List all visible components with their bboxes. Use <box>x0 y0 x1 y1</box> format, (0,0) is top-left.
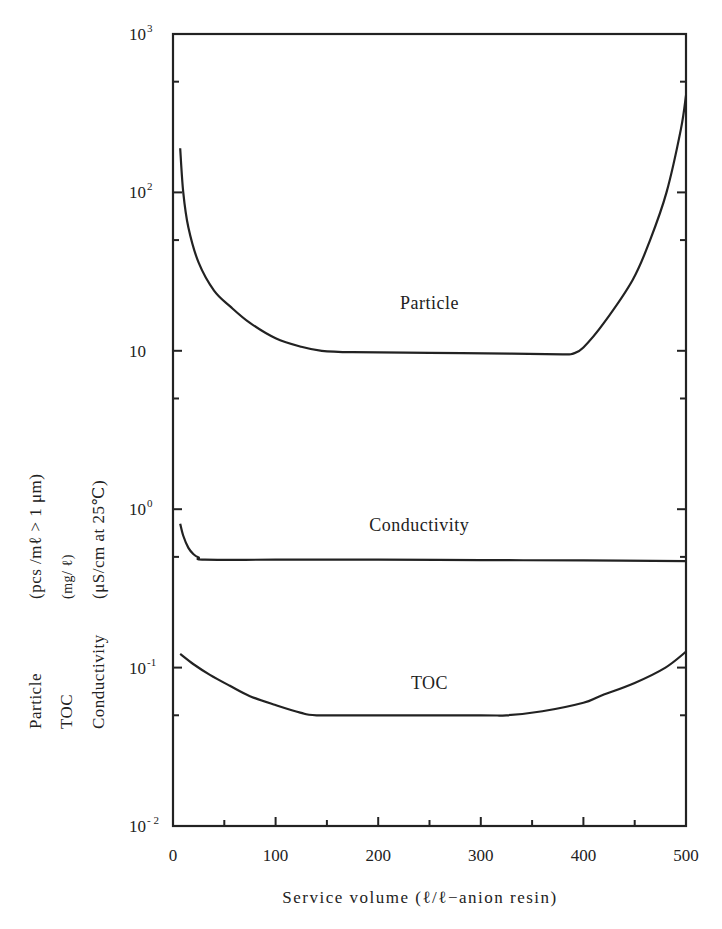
y-tick-label: 102 <box>129 180 153 202</box>
y-tick-label: 103 <box>129 22 153 44</box>
x-tick-label: 500 <box>673 846 699 865</box>
y-axis-title-particle-name: Particle <box>26 673 45 729</box>
plot-border <box>173 34 686 826</box>
series-line-particle <box>180 95 686 354</box>
y-axis-title-conductivity-unit: (μS/cm at 25℃) <box>89 480 108 599</box>
x-tick-label: 400 <box>571 846 597 865</box>
y-axis-title-toc-name: TOC <box>57 694 76 729</box>
y-tick-labels: 1031021010010-110- 2 <box>129 22 159 836</box>
series-lines <box>180 95 686 715</box>
y-axis-title-particle: Particle (pcs /mℓ > 1 μm) <box>26 474 45 730</box>
x-tick-label: 200 <box>365 846 391 865</box>
x-tick-label: 0 <box>169 846 178 865</box>
x-tick-labels: 0100200300400500 <box>169 846 699 865</box>
y-axis-title-conductivity-name: Conductivity <box>89 634 108 729</box>
y-axis-title-toc: TOC (mg/ ℓ) <box>57 554 76 729</box>
y-tick-label: 100 <box>129 497 153 519</box>
plot-frame <box>173 34 686 826</box>
y-axis-title-particle-unit: (pcs /mℓ > 1 μm) <box>26 474 45 600</box>
x-axis-title: Service volume (ℓ/ℓ−anion resin) <box>282 888 557 907</box>
curve-label-particle: Particle <box>400 293 459 313</box>
axis-ticks <box>173 34 686 826</box>
chart: 0100200300400500 1031021010010-110- 2 Pa… <box>0 0 722 929</box>
y-axis-title-toc-unit: (mg/ ℓ) <box>60 554 76 599</box>
curve-label-toc: TOC <box>411 673 448 693</box>
y-axis-title-conductivity: Conductivity (μS/cm at 25℃) <box>89 480 108 729</box>
x-tick-label: 300 <box>468 846 494 865</box>
y-tick-label: 10 <box>129 342 146 361</box>
curve-label-conductivity: Conductivity <box>369 515 469 535</box>
y-tick-label: 10-1 <box>129 656 156 678</box>
x-tick-label: 100 <box>263 846 289 865</box>
y-tick-label: 10- 2 <box>129 814 159 836</box>
